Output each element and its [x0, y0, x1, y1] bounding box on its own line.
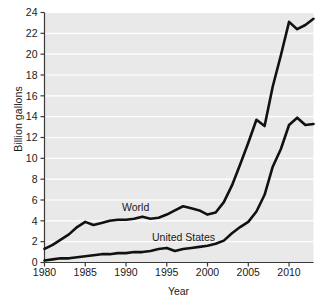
x-tick-label: 1995: [145, 267, 189, 278]
y-tick-label: 24: [12, 7, 38, 18]
x-tick-label: 1985: [63, 267, 107, 278]
plot-area: [0, 0, 321, 304]
y-tick-label: 4: [12, 216, 38, 227]
y-tick-label: 6: [12, 195, 38, 206]
y-tick-label: 20: [12, 49, 38, 60]
x-tick-label: 1980: [23, 267, 67, 278]
x-tick-label: 2000: [186, 267, 230, 278]
series-label-world: World: [122, 202, 149, 213]
y-tick-label: 12: [12, 132, 38, 143]
x-tick-label: 1990: [104, 267, 148, 278]
y-tick-label: 22: [12, 28, 38, 39]
y-tick-label: 10: [12, 153, 38, 164]
x-tick-label: 2010: [267, 267, 311, 278]
y-tick-label: 8: [12, 174, 38, 185]
y-tick-label: 14: [12, 111, 38, 122]
y-tick-label: 2: [12, 236, 38, 247]
x-tick-label: 2005: [226, 267, 270, 278]
series-label-united-states: United States: [152, 232, 215, 243]
y-tick-label: 18: [12, 70, 38, 81]
chart-container: Billion gallons Year 0246810121416182022…: [0, 0, 321, 304]
y-tick-label: 16: [12, 91, 38, 102]
